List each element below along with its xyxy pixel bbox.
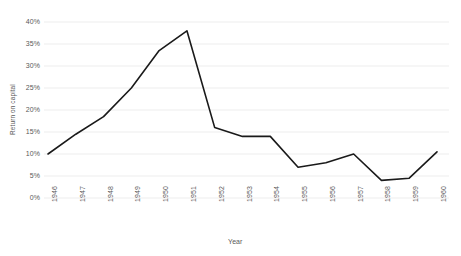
gridlines bbox=[44, 22, 449, 198]
x-axis-tick-label: 1953 bbox=[246, 186, 253, 202]
x-axis-tick-label: 1946 bbox=[51, 186, 58, 202]
y-axis-tick-label: 35% bbox=[14, 40, 40, 47]
y-axis-tick-label: 20% bbox=[14, 106, 40, 113]
x-axis-tick-label: 1959 bbox=[412, 186, 419, 202]
x-axis-tick-label: 1948 bbox=[107, 186, 114, 202]
y-axis-tick-label: 15% bbox=[14, 128, 40, 135]
x-axis-tick-label: 1957 bbox=[357, 186, 364, 202]
y-axis-tick-label: 40% bbox=[14, 18, 40, 25]
y-axis-tick-label: 0% bbox=[14, 194, 40, 201]
x-axis-tick-label: 1949 bbox=[134, 186, 141, 202]
x-axis-tick-label: 1947 bbox=[79, 186, 86, 202]
x-axis-tick-label: 1958 bbox=[384, 186, 391, 202]
y-axis-tick-label: 25% bbox=[14, 84, 40, 91]
y-axis-tick-label: 10% bbox=[14, 150, 40, 157]
x-axis-tick-label: 1956 bbox=[329, 186, 336, 202]
x-axis-tick-label: 1954 bbox=[273, 186, 280, 202]
x-axis-tick-label: 1955 bbox=[301, 186, 308, 202]
y-axis-tick-label: 30% bbox=[14, 62, 40, 69]
x-axis-tick-label: 1950 bbox=[162, 186, 169, 202]
data-series-line bbox=[48, 31, 437, 181]
plot-area bbox=[0, 0, 461, 256]
x-axis-tick-label: 1951 bbox=[190, 186, 197, 202]
line-chart: Return on capital Year 0%5%10%15%20%25%3… bbox=[0, 0, 461, 256]
y-axis-tick-label: 5% bbox=[14, 172, 40, 179]
x-axis-tick-label: 1960 bbox=[440, 186, 447, 202]
x-axis-tick-label: 1952 bbox=[218, 186, 225, 202]
